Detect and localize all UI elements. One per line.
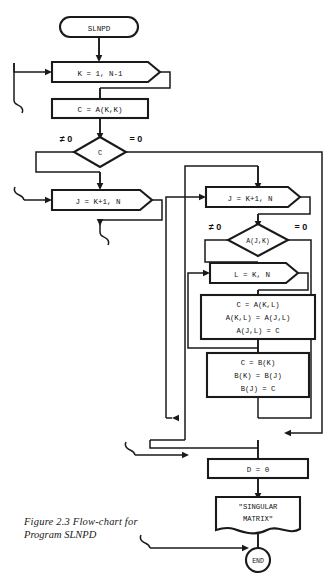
swap-b-line-2: B(K) = B(J) <box>234 372 281 380</box>
process-box-assign-c-label: C = A(K,K) <box>77 106 122 114</box>
output-line-2: MATRIX" <box>243 515 273 523</box>
branch-label-ajk-zero: = 0 <box>295 222 308 232</box>
figure-caption-line-2: Program SLNPD <box>24 529 96 540</box>
hook-mark-4 <box>125 442 135 455</box>
swap-b-line-1: C = B(K) <box>241 359 276 367</box>
swap-a-line-1: C = A(K,L) <box>236 301 279 309</box>
loop-box-j-left-label: J = K+1, N <box>75 198 120 206</box>
hook-mark-2 <box>100 232 109 245</box>
branch-label-c-zero: = 0 <box>130 134 143 144</box>
hook-mark-3 <box>14 187 24 200</box>
swap-b-line-3: B(J) = C <box>241 385 276 393</box>
hook-mark-1 <box>14 100 23 113</box>
decision-diamond-ajk-label: A(J,K) <box>246 238 269 245</box>
loop-box-l-label: L = K, N <box>234 271 270 279</box>
process-box-assign-d-label: D = 0 <box>247 466 270 474</box>
arrow-head <box>284 430 291 437</box>
arrow-head <box>172 415 179 422</box>
swap-a-line-2: A(K,L) = A(J,L) <box>226 314 291 322</box>
decision-diamond-c-label: C <box>98 149 102 157</box>
branch-label-ajk-not-zero: ≠ 0 <box>209 222 221 232</box>
figure-caption: Figure 2.3 Flow-chart for Program SLNPD <box>24 516 194 541</box>
arrow-head <box>242 545 249 552</box>
figure-caption-line-1: Figure 2.3 Flow-chart for <box>24 516 138 527</box>
bottom-merge-rail-down <box>150 440 258 448</box>
arrow-head <box>97 219 104 226</box>
start-terminal-label: SLNPD <box>88 25 111 33</box>
output-line-1: "SINGULAR <box>239 503 279 511</box>
loop-box-j-right-label: J = K+1, N <box>227 195 272 203</box>
swap-a-line-3: A(J,L) = C <box>236 327 280 335</box>
loop-box-k-label: K = 1, N-1 <box>77 70 123 78</box>
flowchart-diagram: SLNPD K = 1, N-1 C = A(K,K) C ≠ 0 = 0 J … <box>0 0 326 583</box>
loop-k-entry-rail <box>14 63 46 72</box>
loop-j-right-back-rail <box>166 197 200 418</box>
end-terminal-label: END <box>252 558 264 565</box>
arrow-head <box>182 452 189 459</box>
branch-label-c-not-zero: ≠ 0 <box>60 134 72 144</box>
